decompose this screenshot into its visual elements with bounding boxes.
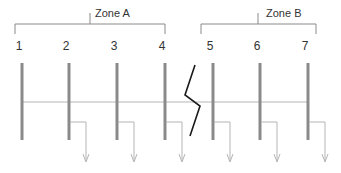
zone-diagram: [0, 0, 341, 173]
break-symbol-icon: [185, 65, 200, 136]
zone-label: Zone B: [266, 8, 301, 19]
column-number: 1: [16, 40, 23, 52]
column-number: 7: [302, 40, 309, 52]
column-number: 4: [159, 40, 166, 52]
column-number: 2: [63, 40, 70, 52]
column-number: 3: [111, 40, 118, 52]
column-number: 5: [207, 40, 214, 52]
column-number: 6: [254, 40, 261, 52]
zone-label: Zone A: [95, 8, 130, 19]
tap-arrows: [70, 122, 328, 162]
zone-bracket: [15, 13, 165, 34]
